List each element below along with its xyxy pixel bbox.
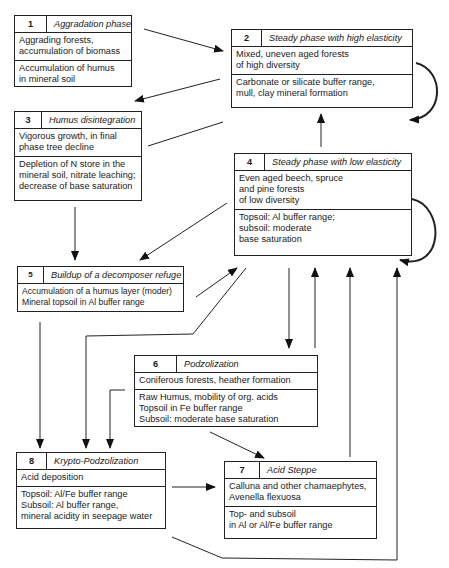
phase-header: 5 Buildup of a decomposer refuge xyxy=(18,267,183,284)
arrow-1-to-2 xyxy=(144,29,223,51)
phase-header: 4 Steady phase with low elasticity xyxy=(235,154,411,171)
vegetation-text: Vigorous growth, in final phase tree dec… xyxy=(15,129,141,156)
soil-text: Accumulation of humus in mineral soil xyxy=(15,60,131,88)
phase-box-4: 4 Steady phase with low elasticity Even … xyxy=(234,153,412,256)
vegetation-text: Mixed, uneven aged forests of high diver… xyxy=(232,47,412,74)
phase-title: Steady phase with low elasticity xyxy=(265,154,401,170)
soil-text: Topsoil: Al/Fe buffer range Subsoil: Al … xyxy=(17,486,165,525)
soil-text: Topsoil: Al buffer range; subsoil: moder… xyxy=(235,209,411,248)
soil-text: Raw Humus, mobility of org. acids Topsoi… xyxy=(135,389,317,428)
phase-title: Aggradation phase xyxy=(47,16,131,32)
vegetation-text: Acid deposition xyxy=(17,470,165,486)
self-loop-2 xyxy=(410,63,437,120)
phase-title: Podzolization xyxy=(177,356,239,372)
phase-number: 2 xyxy=(232,30,262,46)
vegetation-text: Even aged beech, spruce and pine forests… xyxy=(235,171,411,209)
soil-text: Depletion of N store in the mineral soil… xyxy=(15,156,141,195)
phase-number: 7 xyxy=(225,462,260,478)
soil-text: Carbonate or silicate buffer range, mull… xyxy=(232,74,412,102)
phase-box-8: 8 Krypto-Podzolization Acid deposition T… xyxy=(16,452,166,529)
phase-title: Humus disintegration xyxy=(42,112,135,128)
phase-header: 1 Aggradation phase xyxy=(15,16,131,33)
phase-number: 5 xyxy=(18,267,44,283)
soil-text: Accumulation of a humus layer (moder) Mi… xyxy=(18,284,183,311)
arrow-5-to-4 xyxy=(196,268,237,297)
phase-title: Acid Steppe xyxy=(260,462,317,478)
phase-box-3: 3 Humus disintegration Vigorous growth, … xyxy=(14,111,142,201)
phase-box-1: 1 Aggradation phase Aggrading forests, a… xyxy=(14,15,132,87)
phase-box-5: 5 Buildup of a decomposer refuge Accumul… xyxy=(17,266,184,312)
phase-number: 4 xyxy=(235,154,265,170)
phase-number: 1 xyxy=(15,16,47,32)
phase-title: Krypto-Podzolization xyxy=(47,453,138,469)
arrow-6-to-8 xyxy=(110,390,125,448)
phase-box-7: 7 Acid Steppe Calluna and other chamaeph… xyxy=(224,461,377,539)
phase-number: 8 xyxy=(17,453,47,469)
phase-header: 7 Acid Steppe xyxy=(225,462,376,479)
arrow-6-to-7 xyxy=(210,432,264,458)
arrow-4-to-5 xyxy=(140,203,227,260)
arrow-3-to-2 xyxy=(148,122,223,146)
arrow-2-to-3 xyxy=(135,79,220,101)
vegetation-text: Calluna and other chamaephytes, Avenella… xyxy=(225,479,376,506)
phase-number: 3 xyxy=(15,112,42,128)
vegetation-text: Coniferous forests, heather formation xyxy=(135,373,317,389)
phase-title: Buildup of a decomposer refuge xyxy=(44,267,181,283)
phase-number: 6 xyxy=(135,356,177,372)
phase-header: 6 Podzolization xyxy=(135,356,317,373)
phase-header: 3 Humus disintegration xyxy=(15,112,141,129)
soil-text: Top- and subsoil in Al or Al/Fe buffer r… xyxy=(225,506,376,534)
phase-header: 8 Krypto-Podzolization xyxy=(17,453,165,470)
vegetation-text: Aggrading forests, accumulation of bioma… xyxy=(15,33,131,60)
phase-box-6: 6 Podzolization Coniferous forests, heat… xyxy=(134,355,318,427)
phase-box-2: 2 Steady phase with high elasticity Mixe… xyxy=(231,29,413,108)
phase-title: Steady phase with high elasticity xyxy=(262,30,402,46)
phase-header: 2 Steady phase with high elasticity xyxy=(232,30,412,47)
